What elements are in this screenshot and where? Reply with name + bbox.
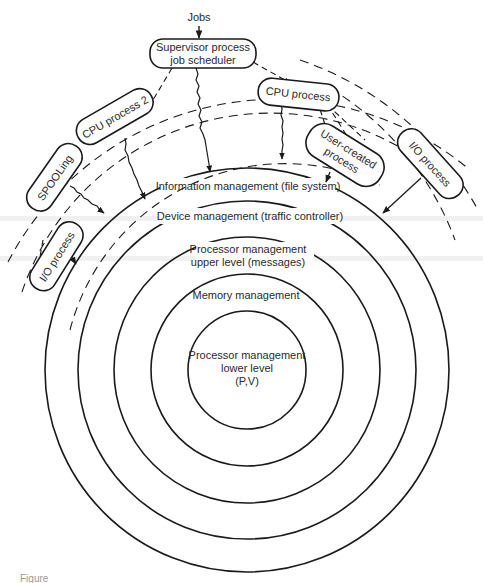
supervisor-process-node: Supervisor process job scheduler [150,39,256,68]
io-process-right-node: I/O process [392,123,468,203]
ring-label-processor-upper-line2: upper level (messages) [191,256,305,268]
cpu-process-2-node: CPU process 2 [72,84,158,149]
svg-text:job scheduler: job scheduler [169,54,236,66]
ring-label-processor-lower-line3: (P,V) [235,375,259,387]
ring-label-information-management: Information management (file system) [156,180,341,192]
os-layers-diagram: Jobs Supervisor process job scheduler CP… [0,0,483,583]
ring-label-device-management: Device management (traffic controller) [157,210,343,222]
svg-text:Supervisor process: Supervisor process [156,41,251,53]
io-process-left-node: I/O process [25,217,88,296]
jobs-label: Jobs [187,11,211,23]
ring-label-processor-lower-line1: Processor management [189,349,306,361]
cpu-process-node: CPU process [257,77,340,112]
figure-caption: Figure [20,573,49,583]
ring-label-memory-management: Memory management [193,289,300,301]
ring-label-processor-lower-line2: lower level [221,362,273,374]
ring-label-processor-upper-line1: Processor management [190,243,307,255]
spooling-node: SPOOLing [22,138,88,216]
